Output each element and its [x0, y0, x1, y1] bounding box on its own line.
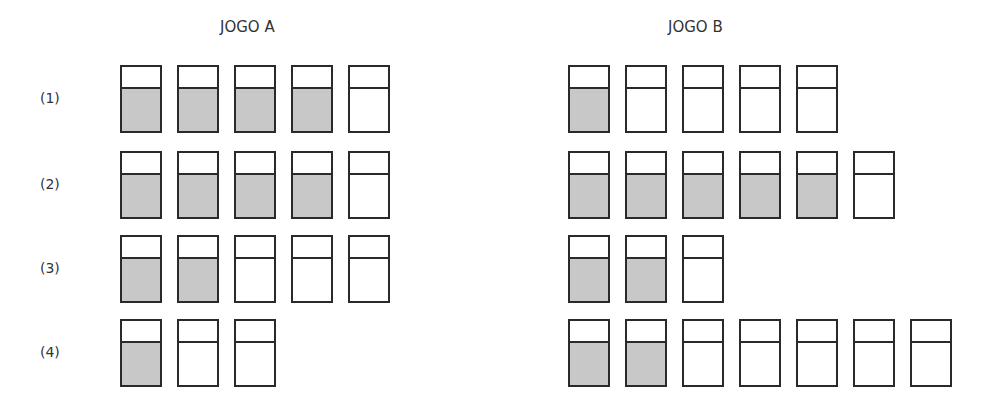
card-top-section: [627, 67, 665, 89]
row-label-3: (3): [40, 260, 60, 276]
card-top-section: [570, 321, 608, 343]
card-top-section: [293, 237, 331, 259]
card-shaded-section: [236, 89, 274, 131]
card-top-section: [627, 321, 665, 343]
card-shaded-section: [122, 343, 160, 385]
card-shaded-section: [179, 89, 217, 131]
card-top-section: [798, 153, 836, 175]
card-top-section: [236, 67, 274, 89]
filled-card: [625, 235, 667, 303]
card-top-section: [350, 153, 388, 175]
row-label-1: (1): [40, 90, 60, 106]
empty-card: [682, 65, 724, 133]
card-top-section: [122, 237, 160, 259]
card-shaded-section: [627, 259, 665, 301]
filled-card: [625, 319, 667, 387]
filled-card: [568, 319, 610, 387]
card-top-section: [179, 153, 217, 175]
card-top-section: [741, 153, 779, 175]
card-top-section: [350, 67, 388, 89]
empty-card: [348, 235, 390, 303]
empty-card: [853, 319, 895, 387]
filled-card: [568, 65, 610, 133]
filled-card: [796, 151, 838, 219]
card-top-section: [912, 321, 950, 343]
empty-card: [348, 65, 390, 133]
card-top-section: [570, 237, 608, 259]
game-b-row-2: [568, 151, 895, 219]
card-shaded-section: [570, 89, 608, 131]
card-top-section: [627, 237, 665, 259]
filled-card: [739, 151, 781, 219]
game-b-row-3: [568, 235, 724, 303]
card-shaded-section: [122, 259, 160, 301]
empty-card: [682, 319, 724, 387]
empty-card: [853, 151, 895, 219]
empty-card: [234, 235, 276, 303]
game-a-title: JOGO A: [220, 18, 275, 36]
card-shaded-section: [179, 259, 217, 301]
card-top-section: [855, 153, 893, 175]
empty-card: [291, 235, 333, 303]
filled-card: [177, 235, 219, 303]
card-shaded-section: [627, 343, 665, 385]
card-top-section: [293, 153, 331, 175]
card-shaded-section: [570, 259, 608, 301]
card-top-section: [570, 67, 608, 89]
card-shaded-section: [179, 175, 217, 217]
empty-card: [682, 235, 724, 303]
card-top-section: [236, 153, 274, 175]
card-shaded-section: [570, 175, 608, 217]
filled-card: [177, 65, 219, 133]
card-shaded-section: [122, 175, 160, 217]
card-shaded-section: [570, 343, 608, 385]
filled-card: [291, 65, 333, 133]
card-shaded-section: [741, 175, 779, 217]
card-top-section: [236, 321, 274, 343]
card-top-section: [122, 321, 160, 343]
card-top-section: [350, 237, 388, 259]
empty-card: [625, 65, 667, 133]
card-top-section: [179, 67, 217, 89]
filled-card: [177, 151, 219, 219]
empty-card: [739, 319, 781, 387]
card-top-section: [122, 153, 160, 175]
card-shaded-section: [293, 89, 331, 131]
card-shaded-section: [293, 175, 331, 217]
card-top-section: [741, 67, 779, 89]
filled-card: [625, 151, 667, 219]
card-top-section: [798, 321, 836, 343]
filled-card: [568, 151, 610, 219]
empty-card: [177, 319, 219, 387]
game-a-row-4: [120, 319, 276, 387]
card-top-section: [179, 237, 217, 259]
game-b-row-1: [568, 65, 838, 133]
empty-card: [234, 319, 276, 387]
game-b-row-4: [568, 319, 952, 387]
card-shaded-section: [122, 89, 160, 131]
card-top-section: [570, 153, 608, 175]
empty-card: [348, 151, 390, 219]
game-a-row-1: [120, 65, 390, 133]
card-shaded-section: [236, 175, 274, 217]
card-shaded-section: [798, 175, 836, 217]
filled-card: [120, 151, 162, 219]
empty-card: [796, 65, 838, 133]
card-shaded-section: [684, 175, 722, 217]
card-top-section: [236, 237, 274, 259]
card-top-section: [855, 321, 893, 343]
empty-card: [739, 65, 781, 133]
game-a-row-2: [120, 151, 390, 219]
card-top-section: [293, 67, 331, 89]
card-top-section: [741, 321, 779, 343]
card-top-section: [684, 237, 722, 259]
filled-card: [234, 65, 276, 133]
card-top-section: [684, 321, 722, 343]
card-top-section: [122, 67, 160, 89]
filled-card: [234, 151, 276, 219]
filled-card: [682, 151, 724, 219]
empty-card: [796, 319, 838, 387]
filled-card: [120, 235, 162, 303]
filled-card: [568, 235, 610, 303]
card-top-section: [684, 153, 722, 175]
